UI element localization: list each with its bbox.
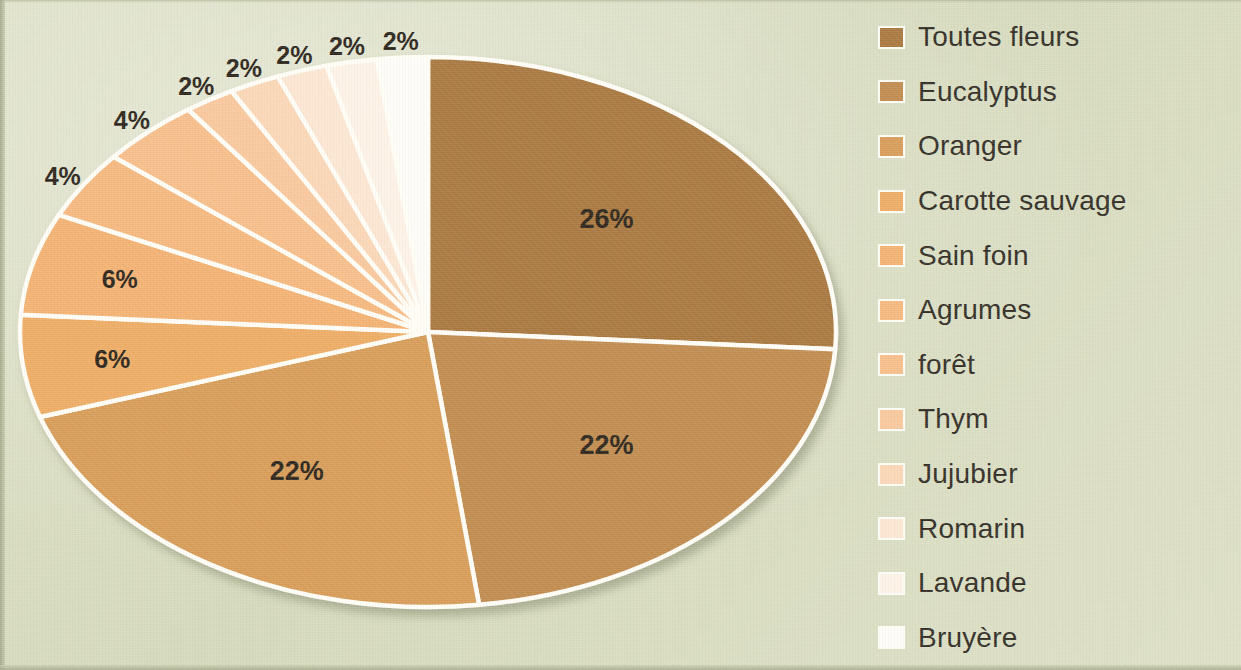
legend-color-swatch — [878, 408, 905, 431]
legend-item[interactable]: Oranger — [872, 119, 1241, 174]
pie-slice-label: 2% — [329, 32, 365, 60]
pie-slice-label: 2% — [178, 72, 214, 100]
legend-color-swatch — [878, 244, 905, 267]
legend-item-label: Agrumes — [918, 294, 1031, 326]
pie-slice-label: 22% — [579, 430, 633, 460]
legend-item-label: Carotte sauvage — [918, 185, 1126, 217]
legend-item-label: Toutes fleurs — [918, 21, 1079, 53]
legend-color-swatch — [878, 517, 905, 540]
legend-item-label: Oranger — [918, 130, 1022, 162]
legend-item[interactable]: Agrumes — [872, 283, 1241, 338]
legend-item-label: forêt — [918, 349, 975, 381]
legend-item[interactable]: Bruyère — [872, 611, 1241, 666]
legend-item-label: Bruyère — [918, 622, 1017, 654]
legend-item-label: Eucalyptus — [918, 76, 1057, 108]
legend-item[interactable]: Jujubier — [872, 447, 1241, 502]
legend-color-swatch — [878, 463, 905, 486]
pie-slices-group — [20, 57, 836, 607]
legend-item-label: Thym — [918, 403, 989, 435]
pie-slice-label: 2% — [276, 41, 312, 69]
legend-item[interactable]: Carotte sauvage — [872, 174, 1241, 229]
pie-chart-svg: 26%22%22%6%6%4%4%2%2%2%2%2% — [0, 0, 860, 670]
legend-item[interactable]: Sain foin — [872, 228, 1241, 283]
legend-color-swatch — [878, 80, 905, 103]
legend-color-swatch — [878, 572, 905, 595]
pie-chart-plot-area: 26%22%22%6%6%4%4%2%2%2%2%2% — [0, 0, 860, 670]
legend-item[interactable]: forêt — [872, 338, 1241, 393]
legend-item[interactable]: Lavande — [872, 556, 1241, 611]
legend-item-label: Romarin — [918, 513, 1025, 545]
legend-color-swatch — [878, 353, 905, 376]
legend-item[interactable]: Toutes fleurs — [872, 10, 1241, 65]
chart-legend: Toutes fleursEucalyptusOrangerCarotte sa… — [872, 4, 1241, 668]
pie-slice-label: 22% — [270, 456, 324, 486]
legend-item[interactable]: Eucalyptus — [872, 65, 1241, 120]
pie-slice-label: 2% — [226, 54, 262, 82]
pie-slice-label: 4% — [114, 106, 150, 134]
pie-slice[interactable] — [428, 332, 835, 605]
pie-slice-label: 2% — [383, 27, 419, 55]
legend-item-label: Jujubier — [918, 458, 1018, 490]
legend-color-swatch — [878, 299, 905, 322]
legend-item[interactable]: Romarin — [872, 501, 1241, 556]
legend-color-swatch — [878, 190, 905, 213]
legend-item-label: Sain foin — [918, 240, 1029, 272]
legend-color-swatch — [878, 135, 905, 158]
pie-slice-label: 26% — [579, 204, 633, 234]
pie-slice-label: 6% — [94, 345, 130, 373]
legend-item-label: Lavande — [918, 567, 1027, 599]
legend-color-swatch — [878, 626, 905, 649]
legend-color-swatch — [878, 26, 905, 49]
pie-slice-label: 4% — [45, 162, 81, 190]
chart-page: 26%22%22%6%6%4%4%2%2%2%2%2% Toutes fleur… — [0, 0, 1241, 670]
pie-slice-label: 6% — [102, 265, 138, 293]
legend-item[interactable]: Thym — [872, 392, 1241, 447]
